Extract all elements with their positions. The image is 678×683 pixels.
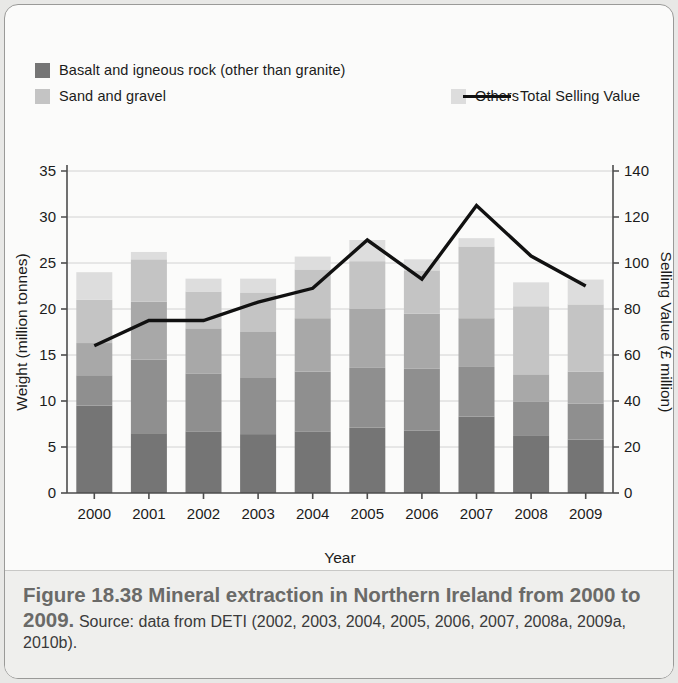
chart-x-tick-label: 2006 <box>405 505 438 522</box>
chart-bar-segment <box>568 280 604 305</box>
chart-bar-segment <box>76 375 112 405</box>
chart-bar-segment <box>131 302 167 360</box>
figure-caption-text: Figure 18.38 Mineral extraction in North… <box>23 583 657 654</box>
legend-color-swatch <box>35 89 50 104</box>
chart-bar-segment <box>568 404 604 440</box>
chart-bar-segment <box>76 343 112 375</box>
legend-entry[interactable]: Sand and gravel <box>35 88 166 104</box>
chart-y-tick-label-right: 80 <box>624 300 641 317</box>
chart-bar-segment <box>513 306 549 374</box>
chart-bar-segment <box>186 279 222 292</box>
chart-bar-segment <box>240 279 276 293</box>
chart-y-tick-label-left: 35 <box>39 162 56 179</box>
chart-bar-segment <box>404 430 440 493</box>
chart-bar-segment <box>459 417 495 493</box>
chart-bar-segment <box>513 402 549 436</box>
chart-bar-segment <box>513 374 549 402</box>
figure-caption: Figure 18.38 Mineral extraction in North… <box>5 570 674 678</box>
chart-y-tick-label-right: 140 <box>624 162 649 179</box>
legend-row: Sand and gravelOthersTotal Selling Value <box>35 83 655 109</box>
legend-color-swatch <box>35 63 50 78</box>
figure-caption-source: Source: data from DETI (2002, 2003, 2004… <box>23 613 626 652</box>
legend-label: Sand and gravel <box>59 88 166 104</box>
chart-bar-segment <box>186 328 222 373</box>
chart-bar-segment <box>349 261 385 309</box>
chart-x-tick-label: 2003 <box>241 505 274 522</box>
chart-bar-segment <box>349 428 385 493</box>
chart-y-axis-label-right: Selling Value (£ million) <box>658 252 674 413</box>
chart-x-tick-label: 2004 <box>296 505 329 522</box>
legend-label: Total Selling Value <box>520 88 640 104</box>
chart-x-tick-label: 2005 <box>351 505 384 522</box>
chart-bar-segment <box>459 246 495 318</box>
chart-bar-segment <box>186 431 222 493</box>
chart-bar-segment <box>240 332 276 378</box>
chart-y-tick-label-right: 20 <box>624 438 641 455</box>
chart-bar-segment <box>459 238 495 246</box>
chart-y-tick-label-left: 5 <box>48 438 56 455</box>
chart-plot-area: 0510152025303502040608010012014020002001… <box>5 155 674 575</box>
chart-bar-segment <box>131 360 167 434</box>
chart-y-tick-label-right: 40 <box>624 392 641 409</box>
chart-bar-segment <box>131 433 167 493</box>
chart-y-tick-label-right: 120 <box>624 208 649 225</box>
chart-x-tick-label: 2008 <box>514 505 547 522</box>
chart-y-tick-label-left: 10 <box>39 392 56 409</box>
chart-x-tick-label: 2002 <box>187 505 220 522</box>
chart-bar-segment <box>459 367 495 417</box>
legend-line-swatch <box>463 95 511 98</box>
chart-bar-segment <box>240 434 276 493</box>
chart-bar-segment <box>459 318 495 367</box>
chart-bar-segment <box>295 431 331 493</box>
legend-entry[interactable]: Basalt and igneous rock (other than gran… <box>35 62 346 78</box>
chart-bar-segment <box>76 300 112 343</box>
chart-bar-segment <box>568 304 604 371</box>
chart-y-tick-label-left: 25 <box>39 254 56 271</box>
chart-y-tick-label-left: 15 <box>39 346 56 363</box>
chart-x-tick-label: 2009 <box>569 505 602 522</box>
legend-entry[interactable]: Total Selling Value <box>463 88 640 104</box>
chart-bar-segment <box>513 436 549 493</box>
chart-y-tick-label-right: 0 <box>624 484 632 501</box>
chart-bar-segment <box>131 252 167 259</box>
chart-bar-segment <box>295 372 331 432</box>
chart-y-tick-label-right: 100 <box>624 254 649 271</box>
chart-bar-segment <box>76 406 112 493</box>
chart-x-tick-label: 2000 <box>78 505 111 522</box>
chart-y-tick-label-left: 20 <box>39 300 56 317</box>
chart-x-tick-label: 2001 <box>132 505 165 522</box>
chart-y-tick-label-left: 0 <box>48 484 56 501</box>
chart-bar-segment <box>513 282 549 306</box>
chart-x-axis-label: Year <box>324 549 355 566</box>
chart-bar-segment <box>295 257 331 270</box>
chart-y-tick-label-right: 60 <box>624 346 641 363</box>
chart-bar-segment <box>349 368 385 428</box>
chart-bar-segment <box>295 318 331 371</box>
chart-legend: Basalt and igneous rock (other than gran… <box>35 57 655 109</box>
chart-bar-segment <box>404 369 440 431</box>
chart-bar-segment <box>404 314 440 369</box>
chart-bar-segment <box>76 272 112 300</box>
chart-y-tick-label-left: 30 <box>39 208 56 225</box>
chart-svg: 0510152025303502040608010012014020002001… <box>5 155 674 575</box>
chart-bar-segment <box>349 309 385 368</box>
chart-y-axis-label-left: Weight (million tonnes) <box>13 253 30 410</box>
legend-row: Basalt and igneous rock (other than gran… <box>35 57 655 83</box>
chart-bar-segment <box>131 259 167 301</box>
chart-bar-segment <box>186 292 222 329</box>
chart-x-tick-label: 2007 <box>460 505 493 522</box>
chart-bar-segment <box>568 440 604 493</box>
chart-bar-segment <box>240 378 276 434</box>
chart-bar-segment <box>568 372 604 404</box>
chart-bar-segment <box>186 373 222 431</box>
legend-label: Basalt and igneous rock (other than gran… <box>59 62 346 78</box>
figure-card: Basalt and igneous rock (other than gran… <box>4 4 674 679</box>
chart-line-total-selling-value <box>94 206 585 346</box>
